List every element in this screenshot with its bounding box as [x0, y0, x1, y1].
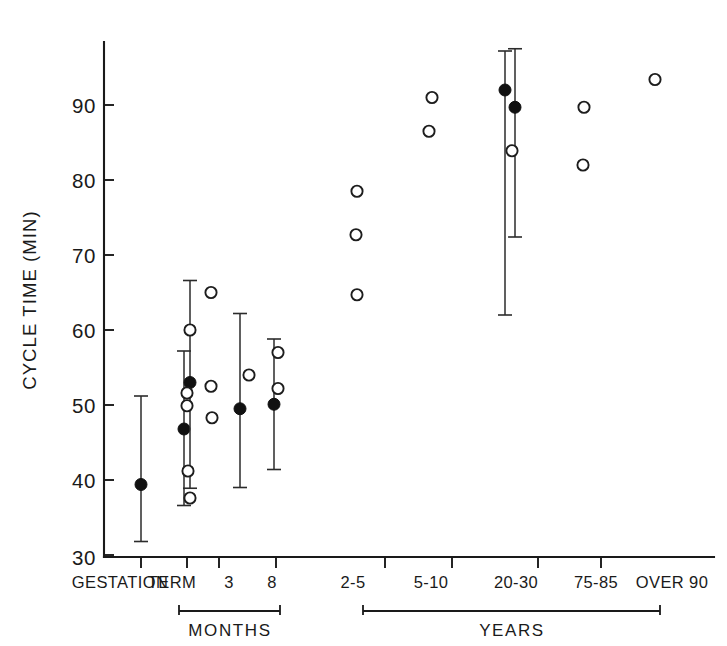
data-point-open [423, 126, 434, 137]
x-tick-label-over-90: OVER 90 [636, 573, 709, 591]
y-axis-tick-labels: 90 80 70 60 50 40 30 [72, 94, 96, 569]
x-tick-label-8: 8 [267, 573, 277, 591]
x-axis-tick-labels: GESTATION TERM 3 8 2-5 5-10 20-30 75-85 … [72, 573, 709, 591]
error-bar [508, 49, 522, 237]
data-point-open [182, 465, 193, 476]
data-point-open [184, 492, 195, 503]
data-point-open [351, 186, 362, 197]
scatter-plot: 90 80 70 60 50 40 30 CYCLE TIME (MIN) GE… [0, 0, 727, 646]
y-tick-label-50: 50 [72, 394, 96, 417]
data-point-open [205, 381, 216, 392]
y-axis-title: CYCLE TIME (MIN) [19, 210, 40, 390]
data-point-open [577, 159, 588, 170]
data-point-open [205, 287, 216, 298]
data-point-open [578, 102, 589, 113]
y-tick-label-30: 30 [72, 546, 96, 569]
group-bracket-years: YEARS [363, 605, 660, 640]
data-point-open [181, 400, 192, 411]
x-tick-label-20-30: 20-30 [494, 573, 538, 591]
figure-container: 90 80 70 60 50 40 30 CYCLE TIME (MIN) GE… [0, 0, 727, 646]
x-tick-label-term: TERM [148, 573, 196, 591]
data-point-open [243, 369, 254, 380]
x-tick-label-75-85: 75-85 [574, 573, 618, 591]
bracket-years-line [363, 605, 660, 615]
data-point-open [506, 145, 517, 156]
x-tick-label-3: 3 [224, 573, 234, 591]
error-bar [233, 314, 247, 488]
data-point-open [272, 347, 283, 358]
y-axis-ticks [104, 105, 114, 555]
data-points-layer [134, 49, 661, 542]
x-axis-ticks [141, 557, 601, 568]
data-point-open [350, 229, 361, 240]
data-point-filled [178, 423, 190, 435]
y-tick-label-60: 60 [72, 319, 96, 342]
y-tick-label-80: 80 [72, 169, 96, 192]
data-point-filled [234, 403, 246, 415]
error-bar [134, 396, 148, 542]
data-point-open [272, 383, 283, 394]
data-point-filled [135, 479, 147, 491]
data-point-open [181, 387, 192, 398]
y-tick-label-40: 40 [72, 469, 96, 492]
x-tick-label-2-5: 2-5 [340, 573, 365, 591]
data-point-open [184, 324, 195, 335]
data-point-filled [509, 101, 521, 113]
data-point-open [426, 92, 437, 103]
data-point-open [351, 289, 362, 300]
data-point-filled [499, 84, 511, 96]
y-tick-label-70: 70 [72, 244, 96, 267]
y-tick-label-90: 90 [72, 94, 96, 117]
data-point-open [649, 74, 660, 85]
data-point-open [206, 412, 217, 423]
bracket-months-label: MONTHS [188, 621, 271, 640]
group-bracket-months: MONTHS [179, 605, 280, 640]
bracket-years-label: YEARS [479, 621, 545, 640]
bracket-months-line [179, 605, 280, 615]
axis-lines [104, 42, 714, 557]
data-point-filled [268, 398, 280, 410]
x-tick-label-5-10: 5-10 [414, 573, 449, 591]
